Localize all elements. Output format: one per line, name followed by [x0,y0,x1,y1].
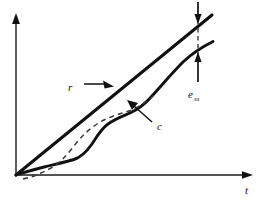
axes-group [12,13,253,179]
response-label: c [157,120,162,132]
error-label-subscript: ss [194,95,200,103]
x-axis-label: t [245,184,249,196]
error-label-base: e [188,88,193,100]
response-curve-line [16,42,213,176]
c-pointer-shaft [134,106,152,122]
reference-ramp-line [16,15,212,175]
steady-state-error-label: e ss [188,88,200,103]
ramp-response-figure: r c e ss t [0,0,263,201]
arrow-right-icon [242,171,253,179]
error-bottom-arrow-group [194,52,201,82]
arrow-right-icon [103,81,114,89]
reference-label: r [68,81,73,93]
arrow-up-icon [12,13,20,24]
r-pointer-group [84,81,114,89]
figure-canvas: r c e ss t [0,0,263,201]
error-top-arrow-group [194,2,201,24]
